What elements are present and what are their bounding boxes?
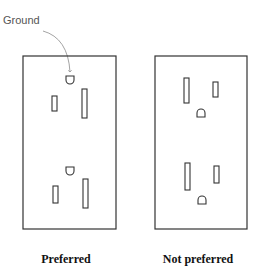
outlet-plate	[155, 56, 247, 229]
hot-slot	[52, 96, 57, 111]
caption-not-preferred: Not preferred	[148, 252, 248, 267]
ground-callout-arrow	[43, 31, 70, 72]
receptacle-lower	[185, 163, 219, 204]
outlet-not-preferred	[155, 56, 247, 229]
outlet-preferred	[23, 56, 116, 229]
neutral-slot	[184, 78, 189, 103]
neutral-slot	[82, 89, 87, 118]
caption-preferred: Preferred	[15, 252, 117, 267]
hot-slot	[53, 186, 58, 203]
receptacle-upper	[184, 78, 218, 117]
hot-slot	[213, 82, 218, 97]
neutral-slot	[185, 163, 190, 190]
receptacle-upper	[52, 76, 87, 118]
neutral-slot	[83, 179, 88, 208]
ground-label: Ground	[3, 14, 40, 26]
ground-hole-icon	[66, 76, 74, 84]
outlet-plate	[23, 56, 116, 229]
hot-slot	[214, 166, 219, 183]
ground-hole-icon	[66, 167, 74, 175]
ground-hole-icon	[197, 109, 205, 117]
ground-hole-icon	[198, 196, 206, 204]
outlet-diagram	[0, 0, 264, 279]
receptacle-lower	[53, 167, 88, 208]
